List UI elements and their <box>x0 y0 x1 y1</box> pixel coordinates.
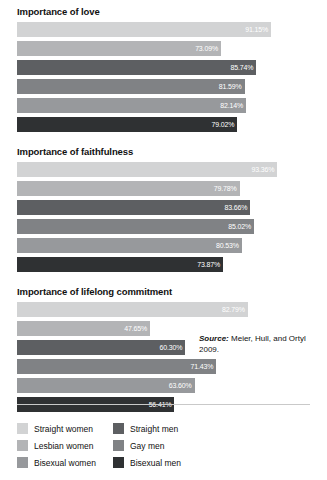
bar-bisexual-men: 73.87% <box>17 257 223 272</box>
legend-swatch-icon <box>17 457 28 468</box>
legend-swatch-icon <box>113 440 124 451</box>
bar-row: 85.74% <box>17 60 327 75</box>
bar-straight-men: 81.59% <box>17 79 245 94</box>
legend-item-straight-women: Straight women <box>17 420 113 437</box>
bar-bisexual-men: 79.02% <box>17 117 237 132</box>
bar-row: 83.66% <box>17 200 327 215</box>
bar-value-label: 79.78% <box>214 185 237 192</box>
source-note: Source: Meier, Hull, and Ortyl 2009. <box>199 333 309 355</box>
bar-lesbian-women: 47.65% <box>17 321 150 336</box>
bar-lesbian-women: 73.09% <box>17 41 221 56</box>
bar-value-label: 73.09% <box>195 45 218 52</box>
legend-swatch-icon <box>17 423 28 434</box>
legend-label: Lesbian women <box>34 441 94 451</box>
legend-swatch-icon <box>113 423 124 434</box>
bar-straight-women: 82.79% <box>17 302 248 317</box>
panel-title-love: Importance of love <box>0 6 327 17</box>
bar-value-label: 83.66% <box>225 204 248 211</box>
bar-value-label: 93.36% <box>252 166 275 173</box>
bar-straight-men: 71.43% <box>17 359 216 374</box>
bar-row: 63.60% <box>17 378 327 393</box>
bar-value-label: 91.15% <box>245 26 268 33</box>
bar-gay-men: 80.53% <box>17 238 242 253</box>
bar-row: 80.53% <box>17 238 327 253</box>
bar-row: 81.59% <box>17 79 327 94</box>
panel-title-commitment: Importance of lifelong commitment <box>0 286 327 297</box>
legend-item-bisexual-women: Bisexual women <box>17 454 113 471</box>
bar-bisexual-women: 83.66% <box>17 200 250 215</box>
bar-row: 91.15% <box>17 22 327 37</box>
bar-bisexual-women: 60.30% <box>17 340 185 355</box>
legend-label: Gay men <box>130 441 165 451</box>
legend-label: Straight women <box>34 424 93 434</box>
bar-value-label: 60.30% <box>159 344 182 351</box>
legend-label: Bisexual men <box>130 458 181 468</box>
legend-swatch-icon <box>113 457 124 468</box>
bar-value-label: 73.87% <box>197 261 220 268</box>
bar-value-label: 80.53% <box>216 242 239 249</box>
legend-item-bisexual-men: Bisexual men <box>113 454 267 471</box>
bar-row: 82.14% <box>17 98 327 113</box>
bar-row: 93.36% <box>17 162 327 177</box>
bar-group-love: 91.15% 73.09% 85.74% 81.59% 82.1 <box>0 22 327 132</box>
bar-value-label: 63.60% <box>169 382 192 389</box>
bar-value-label: 47.65% <box>124 325 147 332</box>
bar-value-label: 79.02% <box>212 121 235 128</box>
bar-gay-men: 82.14% <box>17 98 246 113</box>
bar-row: 82.79% <box>17 302 327 317</box>
bar-row: 73.87% <box>17 257 327 272</box>
bar-gay-men: 63.60% <box>17 378 195 393</box>
legend-divider <box>17 404 310 405</box>
bar-value-label: 71.43% <box>190 363 213 370</box>
bar-row: 71.43% <box>17 359 327 374</box>
bar-group-faithfulness: 93.36% 79.78% 83.66% 85.02% 80.5 <box>0 162 327 272</box>
bar-row: 79.78% <box>17 181 327 196</box>
bar-row: 85.02% <box>17 219 327 234</box>
legend-swatch-icon <box>17 440 28 451</box>
bar-value-label: 81.59% <box>219 83 242 90</box>
bar-row: 79.02% <box>17 117 327 132</box>
legend-item-gay-men: Gay men <box>113 437 267 454</box>
legend-item-straight-men: Straight men <box>113 420 267 437</box>
bar-bisexual-women: 85.74% <box>17 60 256 75</box>
bar-straight-men: 85.02% <box>17 219 254 234</box>
bar-group-commitment: 82.79% 47.65% 60.30% 71.43% 63.6 <box>0 302 327 412</box>
legend-label: Straight men <box>130 424 178 434</box>
chart-panel-faithfulness: Importance of faithfulness 93.36% 79.78%… <box>0 136 327 272</box>
source-note-prefix: Source: <box>199 334 229 343</box>
panel-title-faithfulness: Importance of faithfulness <box>0 146 327 157</box>
legend-item-lesbian-women: Lesbian women <box>17 437 113 454</box>
bar-straight-women: 91.15% <box>17 22 271 37</box>
chart-figure: Importance of love 91.15% 73.09% 85.74% … <box>0 0 327 480</box>
legend-label: Bisexual women <box>34 458 96 468</box>
bar-value-label: 85.74% <box>230 64 253 71</box>
bar-straight-women: 93.36% <box>17 162 277 177</box>
bar-value-label: 85.02% <box>228 223 251 230</box>
bar-value-label: 82.14% <box>220 102 243 109</box>
bar-lesbian-women: 79.78% <box>17 181 240 196</box>
bar-row: 73.09% <box>17 41 327 56</box>
chart-panel-love: Importance of love 91.15% 73.09% 85.74% … <box>0 0 327 132</box>
bar-value-label: 82.79% <box>222 306 245 313</box>
chart-legend: Straight women Straight men Lesbian wome… <box>17 420 267 471</box>
